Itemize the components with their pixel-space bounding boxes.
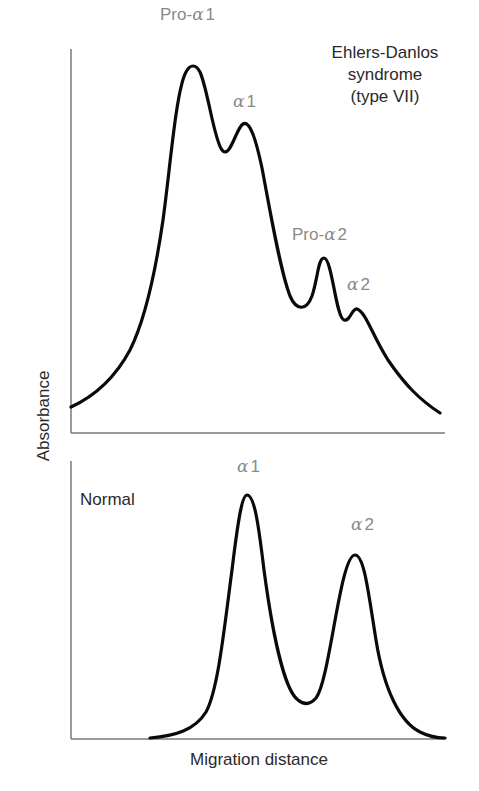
bottom-curve (150, 495, 445, 738)
peak-label-pro-alpha2: Pro-α2 (292, 224, 347, 244)
y-axis-label: Absorbance (34, 371, 53, 462)
peak-label-alpha1-normal: α1 (237, 456, 260, 476)
title-line-1: Ehlers-Danlos (332, 43, 439, 62)
bottom-panel: Normal α1 α2 (71, 456, 445, 739)
top-curve (71, 66, 440, 413)
title-line-2: syndrome (348, 65, 423, 84)
peak-label-pro-alpha1: Pro-α1 (160, 4, 215, 24)
peak-label-alpha2-normal: α2 (351, 514, 374, 534)
top-title: Ehlers-Danlos syndrome (type VII) (332, 43, 439, 106)
normal-label: Normal (80, 490, 135, 509)
x-axis-label: Migration distance (190, 750, 328, 769)
peak-label-alpha2: α2 (347, 274, 370, 294)
peak-label-alpha1: α1 (233, 91, 256, 111)
top-panel: Ehlers-Danlos syndrome (type VII) Pro-α1… (71, 4, 445, 433)
title-line-3: (type VII) (351, 87, 420, 106)
chart-svg: Ehlers-Danlos syndrome (type VII) Pro-α1… (0, 0, 479, 791)
